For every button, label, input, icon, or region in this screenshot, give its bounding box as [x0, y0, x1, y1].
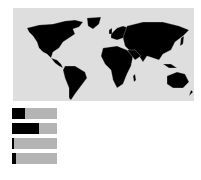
bar-track-4 [12, 153, 57, 164]
bar-fill-1 [12, 108, 25, 119]
bar-track-2 [12, 123, 57, 134]
bar-track-3 [12, 138, 57, 149]
world-map-shapes [13, 8, 194, 101]
bar-fill-4 [12, 153, 16, 164]
bar-track-1 [12, 108, 57, 119]
bar-fill-2 [12, 123, 39, 134]
world-map [13, 8, 194, 101]
bar-chart [12, 108, 58, 168]
bar-fill-3 [12, 138, 14, 149]
